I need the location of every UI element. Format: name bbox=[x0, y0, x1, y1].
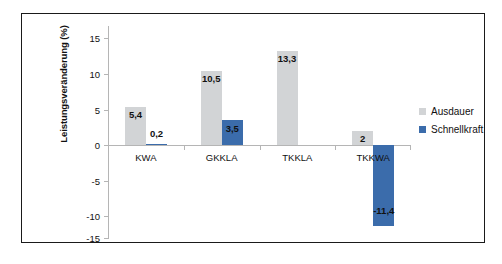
x-category-label-gkkla: GKKLA bbox=[184, 152, 260, 163]
y-tick-label: 5 bbox=[95, 104, 100, 115]
bar-value-schnellkraft-kwa: 0,2 bbox=[140, 128, 173, 139]
chart-figure: Leistungsveränderung (%) 15 10 5 0 -5 -1… bbox=[21, 13, 485, 243]
legend-item-ausdauer[interactable]: Ausdauer bbox=[419, 102, 502, 120]
bar-value-ausdauer-tkkla: 13,3 bbox=[268, 53, 307, 64]
legend-swatch-icon bbox=[419, 108, 426, 115]
bar-value-schnellkraft-gkkla: 3,5 bbox=[216, 123, 249, 134]
bar-group-gkkla: 10,5 3,5 GKKLA bbox=[184, 26, 260, 239]
bar-group-kwa: 5,4 0,2 KWA bbox=[108, 26, 184, 239]
y-tick-label: 15 bbox=[89, 33, 100, 44]
x-category-label-kwa: KWA bbox=[108, 152, 184, 163]
y-tick-label: -15 bbox=[86, 233, 100, 244]
y-tick-label: 0 bbox=[95, 140, 100, 151]
legend-label-ausdauer: Ausdauer bbox=[431, 106, 474, 117]
bar-value-ausdauer-gkkla: 10,5 bbox=[192, 73, 231, 84]
y-tick-label: -5 bbox=[92, 175, 100, 186]
y-tick-label: -10 bbox=[86, 211, 100, 222]
plot-area: 15 10 5 0 -5 -10 -15 5,4 0,2 KWA 10,5 bbox=[108, 26, 411, 239]
bar-value-ausdauer-tkkwa: 2 bbox=[348, 133, 377, 144]
x-category-label-tkkwa: TKKWA bbox=[335, 152, 411, 163]
bar-ausdauer-tkkla[interactable] bbox=[277, 51, 298, 145]
legend-label-schnellkraft: Schnellkraft bbox=[431, 124, 483, 135]
bar-schnellkraft-kwa[interactable] bbox=[146, 144, 167, 145]
legend-item-schnellkraft[interactable]: Schnellkraft bbox=[419, 120, 502, 138]
bar-value-ausdauer-kwa: 5,4 bbox=[119, 109, 152, 120]
chart-legend: Ausdauer Schnellkraft bbox=[419, 102, 502, 138]
x-category-label-tkkla: TKKLA bbox=[260, 152, 336, 163]
bar-group-tkkwa: 2 -11,4 TKKWA bbox=[335, 26, 411, 239]
legend-swatch-icon bbox=[419, 126, 426, 133]
bar-value-schnellkraft-tkkwa: -11,4 bbox=[365, 205, 402, 216]
y-tick-label: 10 bbox=[89, 68, 100, 79]
y-axis-title: Leistungsveränderung (%) bbox=[58, 24, 78, 144]
bar-group-tkkla: 13,3 TKKLA bbox=[260, 26, 336, 239]
